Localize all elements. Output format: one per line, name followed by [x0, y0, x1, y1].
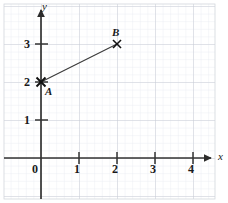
point-b-label: B [112, 27, 119, 38]
x-tick-label-2: 2 [112, 163, 118, 175]
y-tick-label-3: 3 [24, 38, 30, 50]
x-tick-label-1: 1 [74, 163, 80, 175]
y-tick-label-1: 1 [24, 114, 30, 126]
x-tick-label-4: 4 [188, 163, 194, 175]
y-axis-label: y [42, 1, 47, 12]
y-tick-label-2: 2 [24, 76, 30, 88]
x-tick-label-0: 0 [32, 163, 38, 175]
x-tick-label-3: 3 [150, 163, 156, 175]
coordinate-grid-figure: 0 1 2 3 4 1 2 3 x y A B [0, 0, 228, 203]
point-a-label: A [45, 86, 52, 97]
x-axis-label: x [218, 151, 223, 162]
